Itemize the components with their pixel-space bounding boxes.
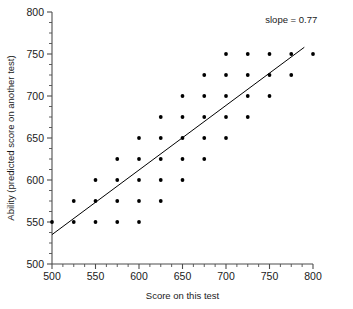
data-point bbox=[224, 136, 228, 140]
x-tick-label: 550 bbox=[87, 270, 105, 282]
data-point bbox=[202, 73, 206, 77]
slope-annotation: slope = 0.77 bbox=[265, 14, 317, 25]
data-point bbox=[137, 178, 141, 182]
data-point bbox=[137, 220, 141, 224]
x-tick-label: 650 bbox=[174, 270, 192, 282]
data-point bbox=[50, 220, 54, 224]
y-tick-label: 600 bbox=[26, 174, 44, 186]
data-point bbox=[181, 94, 185, 98]
x-axis-tick-labels: 500550600650700750800 bbox=[43, 270, 322, 282]
data-point bbox=[137, 157, 141, 161]
data-point bbox=[246, 73, 250, 77]
data-point bbox=[115, 178, 119, 182]
data-point bbox=[246, 94, 250, 98]
y-axis-tick-labels: 500550600650700750800 bbox=[26, 6, 44, 270]
chart-annotations: slope = 0.77 bbox=[265, 14, 317, 25]
data-point bbox=[268, 52, 272, 56]
y-tick-label: 800 bbox=[26, 6, 44, 18]
x-tick-label: 500 bbox=[43, 270, 61, 282]
data-point bbox=[115, 199, 119, 203]
x-tick-label: 750 bbox=[261, 270, 279, 282]
y-tick-label: 650 bbox=[26, 132, 44, 144]
data-point bbox=[159, 178, 163, 182]
data-point bbox=[181, 115, 185, 119]
data-point bbox=[159, 157, 163, 161]
x-axis-major-ticks bbox=[52, 264, 313, 269]
data-point bbox=[202, 136, 206, 140]
data-point bbox=[224, 52, 228, 56]
data-point bbox=[181, 178, 185, 182]
y-tick-label: 750 bbox=[26, 48, 44, 60]
x-axis-title: Score on this test bbox=[146, 290, 220, 301]
data-point bbox=[159, 199, 163, 203]
y-tick-label: 550 bbox=[26, 216, 44, 228]
regression-fit-line bbox=[52, 47, 304, 234]
data-point bbox=[159, 115, 163, 119]
y-axis-major-ticks bbox=[47, 12, 52, 264]
data-point bbox=[137, 199, 141, 203]
y-axis-title: Ability (predicted score on another test… bbox=[5, 55, 16, 220]
data-point bbox=[224, 94, 228, 98]
data-point bbox=[137, 136, 141, 140]
data-point bbox=[94, 220, 98, 224]
data-point bbox=[115, 220, 119, 224]
y-tick-label: 700 bbox=[26, 90, 44, 102]
x-tick-label: 800 bbox=[304, 270, 322, 282]
x-tick-label: 700 bbox=[217, 270, 235, 282]
data-point bbox=[224, 73, 228, 77]
data-point bbox=[311, 52, 315, 56]
plot-canvas: 500550600650700750800 500550600650700750… bbox=[0, 0, 353, 309]
data-point bbox=[246, 52, 250, 56]
scatter-plot-figure: 500550600650700750800 500550600650700750… bbox=[0, 0, 353, 309]
data-point bbox=[202, 157, 206, 161]
data-point bbox=[202, 94, 206, 98]
data-point bbox=[289, 52, 293, 56]
data-point bbox=[181, 157, 185, 161]
data-point bbox=[159, 136, 163, 140]
data-point bbox=[115, 157, 119, 161]
data-point bbox=[268, 94, 272, 98]
data-point bbox=[94, 178, 98, 182]
data-point bbox=[289, 73, 293, 77]
data-point bbox=[72, 220, 76, 224]
data-point bbox=[72, 199, 76, 203]
data-point bbox=[224, 115, 228, 119]
x-tick-label: 600 bbox=[130, 270, 148, 282]
y-tick-label: 500 bbox=[26, 258, 44, 270]
data-point bbox=[246, 115, 250, 119]
data-point bbox=[202, 115, 206, 119]
